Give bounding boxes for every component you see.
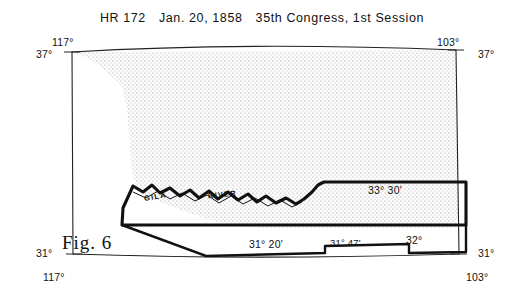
label-31-20: 31° 20' — [249, 238, 283, 250]
label-top-right-lat: 37° — [478, 48, 494, 60]
label-bottom-left-lat: 31° — [36, 247, 52, 259]
label-33-30: 33° 30' — [368, 184, 402, 196]
label-top-right-lon: 103° — [437, 36, 460, 48]
label-31-47: 31° 47' — [330, 237, 361, 248]
label-bottom-right-lat: 31° — [478, 247, 494, 259]
label-top-left-lon: 117° — [52, 36, 74, 48]
label-bottom-left-lon: 117° — [43, 271, 65, 283]
figure-caption: Fig. 6 — [62, 232, 112, 254]
map-figure: HR 172 Jan. 20, 1858 35th Congress, 1st … — [0, 0, 524, 305]
label-32: 32° — [406, 234, 422, 246]
label-top-left-lat: 37° — [36, 48, 52, 60]
label-bottom-right-lon: 103° — [466, 271, 489, 283]
